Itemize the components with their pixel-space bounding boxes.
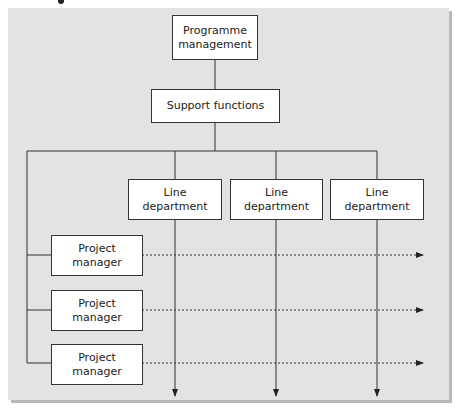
node-label-line2: department	[142, 200, 207, 214]
node-label-line1: Line	[164, 186, 187, 200]
node-label-line2: manager	[72, 365, 121, 379]
programme-management-box: Programme management	[172, 15, 258, 60]
node-label-line1: Project	[78, 351, 116, 365]
line-department-box-1: Line department	[128, 179, 222, 220]
support-functions-box: Support functions	[151, 89, 280, 123]
line-department-box-3: Line department	[330, 179, 424, 220]
node-label-line2: manager	[72, 311, 121, 325]
node-label: Support functions	[167, 99, 265, 113]
node-label-line1: Programme	[183, 24, 247, 38]
project-manager-box-1: Project manager	[51, 235, 143, 276]
node-label-line2: department	[344, 200, 409, 214]
node-label-line2: department	[244, 200, 309, 214]
node-label-line2: management	[178, 38, 252, 52]
node-label-line1: Project	[78, 297, 116, 311]
node-label-line1: Project	[78, 242, 116, 256]
project-manager-box-2: Project manager	[51, 290, 143, 331]
line-department-box-2: Line department	[230, 179, 323, 220]
node-label-line1: Line	[265, 186, 288, 200]
node-label-line2: manager	[72, 256, 121, 270]
node-label-line1: Line	[366, 186, 389, 200]
project-manager-box-3: Project manager	[51, 344, 143, 385]
